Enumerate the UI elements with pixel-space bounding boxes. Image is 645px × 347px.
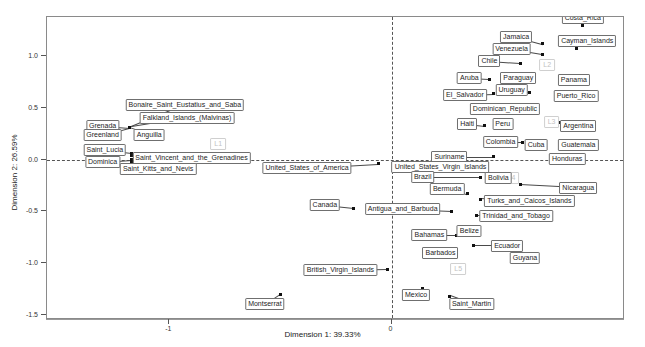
y-tick-mark (41, 210, 46, 211)
y-tick-mark (41, 262, 46, 263)
point-label: Dominica (85, 156, 120, 168)
point-label: Montserrat (245, 298, 284, 310)
point-label: Saint_Vincent_and_the_Grenadines (132, 152, 250, 164)
point-label: Bolivia (485, 172, 512, 184)
data-point[interactable] (528, 91, 531, 94)
y-tick-mark (41, 107, 46, 108)
cluster-marker-label: L2 (539, 59, 555, 71)
x-axis-title: Dimension 1: 39.33% (0, 330, 645, 339)
data-point[interactable] (472, 244, 475, 247)
y-tick-mark (41, 159, 46, 160)
y-tick-label: -1.5 (26, 310, 38, 317)
point-label: Anguilla (134, 129, 165, 141)
point-label: Haiti (457, 118, 477, 130)
point-label: United_States_Virgin_Islands (392, 161, 490, 173)
point-label: Aruba (457, 72, 482, 84)
point-label: United_States_of_America (262, 162, 351, 174)
data-point[interactable] (475, 214, 478, 217)
point-label: Saint_Kitts_and_Nevis (120, 163, 196, 175)
point-label: Brazil (411, 171, 435, 183)
y-tick-label: 1.0 (28, 52, 38, 59)
x-tick-mark (391, 319, 392, 324)
data-point[interactable] (448, 295, 451, 298)
point-label: Saint_Martin (449, 298, 494, 310)
data-point[interactable] (450, 210, 453, 213)
point-label: Paraguay (500, 72, 536, 84)
point-label: Argentina (560, 120, 596, 132)
point-label: Antigua_and_Barbuda (365, 203, 441, 215)
point-label: Cuba (525, 139, 548, 151)
point-label: Venezuela (492, 43, 531, 55)
point-label: Bermuda (430, 183, 464, 195)
point-label: Panama (558, 74, 590, 86)
data-point[interactable] (479, 198, 482, 201)
data-point[interactable] (488, 78, 491, 81)
x-axis-line (46, 319, 624, 320)
data-point[interactable] (483, 124, 486, 127)
point-label: Honduras (549, 153, 585, 165)
data-point[interactable] (541, 42, 544, 45)
point-label: Guyana (510, 252, 541, 264)
y-axis-title: Dimension 2: 26.59% (10, 103, 19, 243)
x-tick-mark (168, 319, 169, 324)
scatter-plot-area: L1L2L3L4L5 Costa_RicaJamaicaCayman_Islan… (46, 16, 624, 319)
data-point[interactable] (575, 47, 578, 50)
point-label: Falkland_Islands_(Malvinas) (140, 112, 235, 124)
point-label: Colombia (483, 136, 519, 148)
y-tick-label: 0.5 (28, 104, 38, 111)
data-point[interactable] (581, 24, 584, 27)
point-label: Saint_Lucia (84, 144, 127, 156)
point-label: Barbados (423, 247, 459, 259)
data-point[interactable] (466, 192, 469, 195)
y-tick-mark (41, 55, 46, 56)
point-label: Belize (457, 225, 482, 237)
point-label: Ecuador (491, 240, 523, 252)
point-label: Bonaire_Saint_Eustatius_and_Saba (126, 99, 244, 111)
y-tick-label: -1.0 (26, 259, 38, 266)
point-label: Bahamas (412, 229, 448, 241)
cluster-marker-label: L1 (210, 138, 226, 150)
point-label: Turks_and_Caicos_Islands (484, 195, 574, 207)
data-point[interactable] (352, 207, 355, 210)
data-point[interactable] (492, 155, 495, 158)
data-point[interactable] (279, 293, 282, 296)
point-label: Puerto_Rico (554, 90, 599, 102)
point-label: Dominican_Republic (470, 103, 540, 115)
point-label: El_Salvador (443, 89, 487, 101)
chart-root: L1L2L3L4L5 Costa_RicaJamaicaCayman_Islan… (0, 0, 645, 347)
data-point[interactable] (479, 176, 482, 179)
point-label: Peru (492, 118, 513, 130)
y-tick-label: -0.5 (26, 207, 38, 214)
point-label: Cayman_Islands (558, 35, 616, 47)
point-label: Nicaragua (559, 182, 597, 194)
point-label: Trinidad_and_Tobago (479, 210, 552, 222)
point-label: Greenland (83, 129, 122, 141)
y-tick-mark (41, 314, 46, 315)
data-point[interactable] (519, 62, 522, 65)
point-label: Mexico (402, 289, 430, 301)
data-point[interactable] (386, 268, 389, 271)
data-point[interactable] (541, 53, 544, 56)
point-label: Guatemala (558, 139, 598, 151)
point-label: Costa_Rica (562, 16, 604, 24)
cluster-marker-label: L3 (544, 116, 560, 128)
point-label: Canada (310, 199, 341, 211)
point-label: Chile (478, 55, 500, 67)
cluster-marker-label: L5 (450, 263, 466, 275)
point-label: Jamaica (500, 31, 532, 43)
data-point[interactable] (377, 162, 380, 165)
point-label: Uruguay (495, 84, 527, 96)
point-label: British_Virgin_Islands (304, 264, 377, 276)
data-point[interactable] (128, 126, 131, 129)
y-tick-label: 0.0 (28, 155, 38, 162)
